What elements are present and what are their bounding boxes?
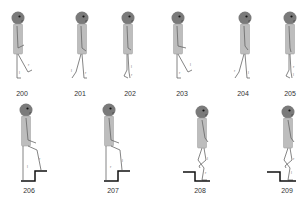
right-leg-mark: r (179, 70, 181, 75)
pose-203: r l (172, 12, 193, 79)
left-leg-mark: l (293, 72, 294, 77)
left-leg-mark: l (71, 68, 72, 73)
label-208: 208 (194, 187, 206, 194)
left-leg-mark: l (122, 158, 123, 163)
pose-206: l r (20, 104, 42, 181)
pose-208: l r (196, 106, 209, 181)
left-leg-mark: l (131, 64, 132, 69)
right-leg-mark: r (293, 156, 295, 161)
stair-206 (21, 171, 47, 181)
pose-201: l r (71, 12, 89, 79)
pose-209: r l (282, 106, 296, 181)
label-205: 205 (284, 90, 296, 97)
right-leg-mark: r (39, 156, 41, 161)
label-202: 202 (124, 90, 136, 97)
pose-204: r l (234, 12, 252, 79)
left-leg-mark: l (190, 62, 191, 67)
label-203: 203 (176, 90, 188, 97)
right-leg-mark: r (293, 64, 295, 69)
pose-202: l r (122, 12, 135, 79)
label-200: 200 (16, 90, 28, 97)
label-201: 201 (74, 90, 86, 97)
label-207: 207 (107, 187, 119, 194)
label-209: 209 (281, 187, 293, 194)
left-leg-mark: l (27, 164, 28, 169)
right-leg-mark: r (85, 70, 87, 75)
pose-200: l r (12, 12, 33, 79)
pose-205: r l (284, 12, 297, 79)
right-leg-mark: r (28, 62, 30, 67)
left-leg-mark: l (248, 70, 249, 75)
stair-207 (104, 171, 130, 181)
right-leg-mark: r (131, 72, 133, 77)
left-leg-mark: l (19, 70, 20, 75)
right-leg-mark: r (205, 170, 207, 175)
right-leg-mark: r (234, 68, 236, 73)
right-leg-mark: r (110, 164, 112, 169)
left-leg-mark: l (207, 156, 208, 161)
label-204: 204 (237, 90, 249, 97)
pose-207: r l (103, 104, 124, 181)
left-leg-mark: l (291, 170, 292, 175)
label-206: 206 (23, 187, 35, 194)
gait-figure: l r l r l r r l r l (0, 0, 306, 205)
